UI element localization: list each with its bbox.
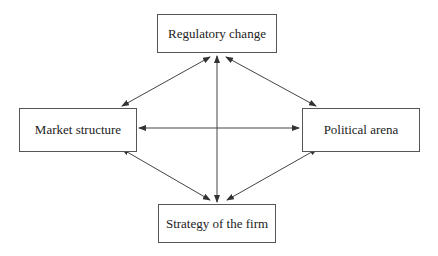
edge-market-strategy [122,149,210,200]
node-label: Market structure [35,122,121,138]
node-market-structure: Market structure [19,108,137,152]
edge-regulatory-market [122,57,210,106]
node-strategy-of-the-firm: Strategy of the firm [158,204,276,243]
node-label: Strategy of the firm [166,216,268,232]
node-political-arena: Political arena [302,108,420,152]
edge-political-strategy [227,149,317,200]
edge-regulatory-political [226,57,316,106]
node-label: Regulatory change [168,26,266,42]
node-regulatory-change: Regulatory change [157,14,277,53]
node-label: Political arena [324,122,399,138]
